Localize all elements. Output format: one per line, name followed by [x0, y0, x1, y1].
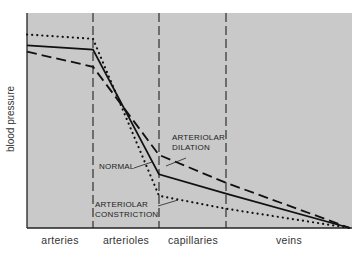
annotation-normal: NORMAL [99, 162, 134, 172]
annotation-dilation-line2: DILATION [172, 143, 225, 153]
annotation-constriction-line2: CONSTRICTION [95, 210, 158, 220]
annotation-constriction-line1: ARTERIOLAR [95, 200, 158, 210]
category-label-veins: veins [276, 234, 302, 246]
annotation-dilation-line1: ARTERIOLAR [172, 133, 225, 143]
y-axis-label: blood pressure [5, 86, 16, 152]
annotation-dilation: ARTERIOLAR DILATION [172, 133, 225, 153]
category-label-arteries: arteries [41, 234, 78, 246]
blood-pressure-chart [0, 0, 364, 256]
category-label-arterioles: arterioles [103, 234, 149, 246]
annotation-constriction: ARTERIOLAR CONSTRICTION [95, 200, 158, 220]
category-label-capillaries: capillaries [168, 234, 218, 246]
plot-background [27, 13, 352, 228]
